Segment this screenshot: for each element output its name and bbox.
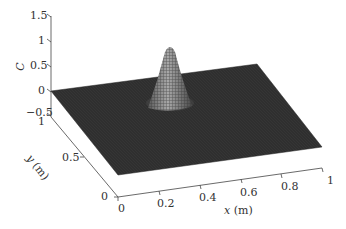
x-tick-label: 0.4 — [199, 192, 217, 203]
x-axis-label: x — [224, 204, 230, 217]
z-tick-label: 0.5 — [30, 60, 48, 71]
surface-plane — [51, 64, 322, 175]
z-axis-title: C — [14, 62, 27, 70]
x-tick-label: 0.2 — [157, 198, 175, 209]
y-tick-label: 0.5 — [62, 152, 80, 163]
x-tick-label: 0.8 — [281, 181, 299, 192]
x-tick-label: 0 — [118, 203, 125, 214]
x-axis-unit: (m) — [234, 204, 253, 217]
z-tick-label: 1.5 — [30, 10, 48, 21]
x-tick-label: 0.6 — [240, 187, 258, 198]
y-tick-label: 0 — [101, 191, 108, 202]
x-axis-title: x (m) — [224, 204, 253, 217]
y-tick-label: 1 — [38, 116, 45, 127]
z-tick-label: 0 — [38, 85, 45, 96]
z-axis — [47, 14, 51, 117]
z-tick-label: 1 — [38, 35, 45, 46]
x-tick-label: 1 — [327, 175, 334, 186]
